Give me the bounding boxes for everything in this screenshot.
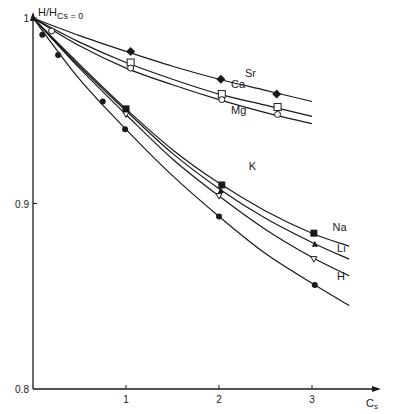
series-label-k: K (249, 160, 257, 172)
marker-k-square-icon (218, 181, 225, 188)
y-axis-title-sub: Cs = 0 (57, 11, 83, 21)
marker-sr-diamond-icon (272, 90, 281, 99)
x-axis-title-sub: s (374, 402, 378, 411)
marker-mg-circle-icon (128, 65, 134, 71)
series-label-na: Na (332, 221, 347, 233)
marker-h-circle-icon (216, 213, 222, 219)
chart: 1230.80.91 SrCaMgKNaLiH H/HCs = 0 Cs (0, 0, 396, 414)
marker-h-circle-icon (122, 126, 128, 132)
marker-mg-circle-icon (219, 97, 225, 103)
marker-h-circle-icon (312, 282, 318, 288)
x-axis-title: Cs (366, 397, 378, 411)
marker-na-triangle-icon (312, 241, 318, 247)
curve-na (33, 18, 349, 259)
curves (33, 18, 349, 306)
series-label-li: Li (337, 242, 346, 254)
series-label-mg: Mg (231, 104, 246, 116)
curve-k (33, 18, 349, 246)
x-axis-title-main: C (366, 397, 374, 409)
x-tick-label: 1 (123, 394, 129, 405)
marker-h-circle-icon (100, 98, 106, 104)
series-label-sr: Sr (245, 67, 256, 79)
marker-mg-circle-icon (49, 28, 55, 34)
y-axis-title-main: H/H (38, 6, 57, 18)
marker-k-square-icon (310, 230, 317, 237)
labels: SrCaMgKNaLiH (231, 67, 347, 281)
y-tick-label: 0.8 (15, 384, 29, 395)
curve-ca (33, 18, 312, 116)
x-tick-label: 3 (309, 394, 315, 405)
y-axis-title: H/HCs = 0 (38, 6, 83, 21)
y-tick-label: 1 (23, 13, 29, 24)
curve-h (33, 18, 349, 306)
marker-ca-square-icon (274, 104, 281, 111)
series-label-ca: Ca (231, 78, 246, 90)
y-tick-label: 0.9 (15, 199, 29, 210)
series-label-h: H (337, 270, 345, 282)
marker-h-circle-icon (39, 32, 45, 38)
marker-mg-circle-icon (275, 111, 281, 117)
x-tick-label: 2 (216, 394, 222, 405)
marker-sr-diamond-icon (216, 75, 225, 84)
axes: 1230.80.91 (15, 12, 381, 405)
x-axis-arrow-icon (372, 386, 381, 392)
marker-h-circle-icon (55, 52, 61, 58)
